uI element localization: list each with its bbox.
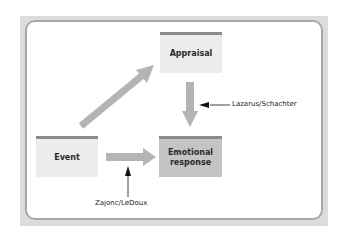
arrow-appraisal-to-response: [182, 82, 198, 127]
node-event: Event: [36, 136, 98, 177]
annotation-zajonc-ledoux: Zajonc/LeDoux: [95, 199, 147, 207]
node-emotional-response-line2: response: [170, 158, 211, 168]
pointer-zajonc: [125, 166, 131, 197]
node-emotional-response-line1: Emotional: [168, 148, 213, 158]
node-appraisal-label: Appraisal: [170, 49, 213, 59]
arrow-event-to-response: [106, 148, 156, 166]
arrow-event-to-appraisal: [81, 65, 154, 126]
node-appraisal: Appraisal: [160, 32, 222, 73]
pointer-lazarus: [199, 102, 230, 108]
node-event-label: Event: [54, 153, 80, 163]
annotation-lazarus-schachter: Lazarus/Schachter: [232, 100, 297, 108]
node-emotional-response: Emotional response: [159, 136, 222, 177]
